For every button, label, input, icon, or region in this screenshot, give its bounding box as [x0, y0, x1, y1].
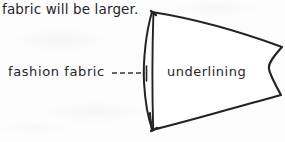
underlining-edge: [153, 13, 154, 129]
fashion-fabric-label: fashion fabric: [8, 64, 105, 79]
underlining-label: underlining: [167, 64, 246, 79]
illustration-page: fabric will be larger. fashion fabric un…: [0, 0, 285, 142]
fashion-fabric-edge: [144, 12, 153, 131]
caption-text: fabric will be larger.: [2, 1, 138, 17]
